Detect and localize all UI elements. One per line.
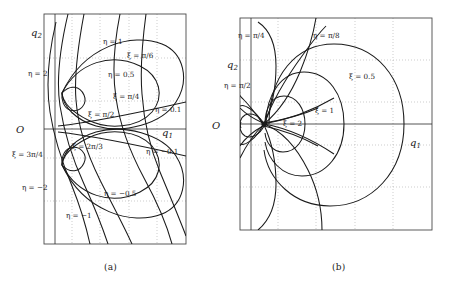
label-xi-pi-6: ξ = π/6 [127, 51, 154, 60]
label-eta-pi-4: η = π/4 [238, 31, 265, 40]
label-eta-neg-2: η = −2 [22, 183, 48, 192]
figure-root: q_2 q2 O q1 η = 1 ξ = π/6 η = 2 η = 0.5 … [0, 0, 452, 296]
label-eta-1: η = 1 [103, 37, 122, 46]
label-eta-0p5: η = 0.5 [108, 70, 135, 79]
label-xi-2pi-3: ξ = 2π/3 [72, 142, 103, 151]
label-xi-pi-2: ξ = π/2 [88, 110, 114, 119]
label-eta-0p1: η = 0.1 [155, 105, 181, 114]
label-eta-neg-0p1: η = −0.1 [146, 147, 178, 156]
label-xi-0p5: ξ = 0.5 [349, 72, 375, 81]
label-eta-pi-8: η = π/8 [313, 31, 340, 40]
label-eta-pi-2: η = π/2 [224, 81, 251, 90]
canvas-background [0, 0, 452, 296]
panel-b-origin: O [212, 120, 220, 131]
caption-panel-b: (b) [332, 262, 345, 272]
label-xi-2: ξ = 2 [283, 119, 302, 128]
panel-b-origin-node [261, 121, 266, 126]
panel-a-origin: O [16, 124, 24, 135]
label-xi-pi-4: ξ = π/4 [113, 92, 140, 101]
label-eta-2: η = 2 [28, 69, 47, 78]
label-eta-neg-0p5: η = −0.5 [104, 189, 137, 198]
label-xi-1: ξ = 1 [315, 106, 334, 115]
label-eta-neg-1: η = −1 [66, 211, 92, 220]
label-xi-3pi-4: ξ = 3π/4 [12, 150, 43, 159]
caption-panel-a: (a) [104, 262, 117, 272]
